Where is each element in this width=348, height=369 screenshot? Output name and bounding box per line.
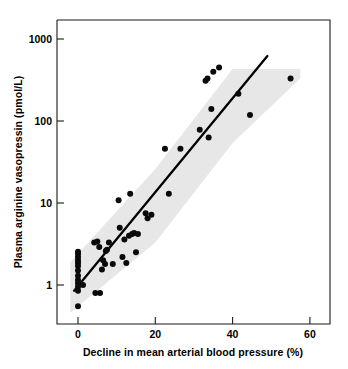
x-tick-label-20: 20 xyxy=(149,328,161,340)
data-point xyxy=(102,261,108,267)
y-axis-title: Plasma arginine vasopressin (pmol/L) xyxy=(12,76,24,269)
data-point xyxy=(121,236,127,242)
data-point xyxy=(80,282,86,288)
x-tick-label-60: 60 xyxy=(304,328,316,340)
data-point xyxy=(247,112,253,118)
data-point xyxy=(166,191,172,197)
confidence-band xyxy=(70,69,300,313)
y-tick-label-100: 100 xyxy=(34,115,52,127)
x-axis-ticks xyxy=(78,317,310,324)
y-tick-label-1000: 1000 xyxy=(29,33,53,45)
data-point xyxy=(110,261,116,267)
data-point xyxy=(235,91,241,97)
data-point xyxy=(94,238,100,244)
data-point xyxy=(104,247,110,253)
data-point xyxy=(143,210,149,216)
y-tick-label-1: 1 xyxy=(46,279,52,291)
data-point xyxy=(162,146,168,152)
data-point xyxy=(97,290,103,296)
data-point xyxy=(204,75,210,81)
y-axis-tick-labels: 1101001000 xyxy=(29,33,53,291)
y-axis-ticks xyxy=(57,39,64,285)
data-point xyxy=(135,231,141,237)
data-point xyxy=(288,75,294,81)
data-point xyxy=(177,146,183,152)
data-point xyxy=(210,69,216,75)
x-axis-tick-labels: 0204060 xyxy=(75,328,316,340)
data-point xyxy=(123,260,129,266)
x-tick-label-0: 0 xyxy=(75,328,81,340)
data-point xyxy=(99,266,105,272)
x-axis-title: Decline in mean arterial blood pressure … xyxy=(83,346,303,358)
data-point xyxy=(117,225,123,231)
scatter-plot: 1101001000 0204060 Decline in mean arter… xyxy=(0,0,348,369)
data-point xyxy=(116,197,122,203)
data-point xyxy=(119,254,125,260)
data-point xyxy=(208,106,214,112)
data-point xyxy=(133,249,139,255)
data-point xyxy=(106,239,112,245)
data-point xyxy=(127,191,133,197)
data-point xyxy=(96,244,102,250)
data-point xyxy=(148,212,154,218)
data-point xyxy=(197,127,203,133)
x-tick-label-40: 40 xyxy=(227,328,239,340)
data-point xyxy=(206,134,212,140)
y-tick-label-10: 10 xyxy=(40,197,52,209)
figure-container: 1101001000 0204060 Decline in mean arter… xyxy=(0,0,348,369)
data-point xyxy=(75,249,81,255)
data-point xyxy=(216,64,222,70)
data-point xyxy=(75,303,81,309)
